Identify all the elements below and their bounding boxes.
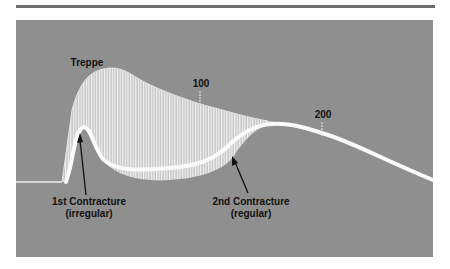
tick-100-label: 100	[190, 78, 212, 89]
treppe-label: Treppe	[68, 57, 106, 68]
first-contracture-sublabel: (irregular)	[50, 208, 128, 219]
second-contracture-sublabel: (regular)	[210, 208, 292, 219]
myograph-trace	[0, 0, 450, 269]
twitch-band	[62, 68, 433, 182]
first-contracture-label: 1st Contracture	[50, 196, 128, 207]
second-contracture-label: 2nd Contracture	[210, 196, 292, 207]
tick-200-label: 200	[312, 109, 334, 120]
arrow-first-contracture	[77, 133, 86, 195]
arrow-second-contracture	[232, 156, 248, 193]
